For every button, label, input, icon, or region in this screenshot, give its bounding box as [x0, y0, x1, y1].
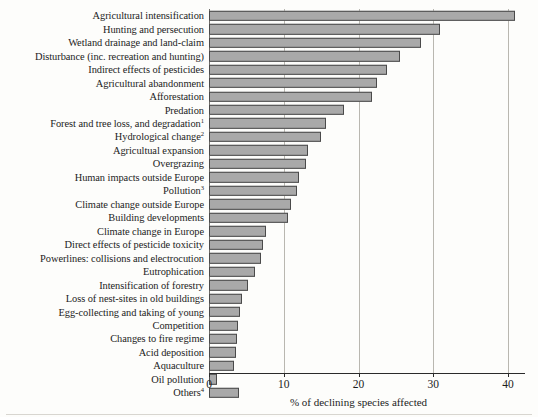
bar-row: Climate change in Europe [0, 225, 538, 238]
bar-row: Oil pollution [0, 373, 538, 386]
bar-row: Eutrophication [0, 265, 538, 278]
bar [209, 361, 234, 371]
bar [209, 37, 421, 47]
category-label: Intensification of forestry [0, 280, 204, 291]
bar-row: Overgrazing [0, 157, 538, 170]
bar [209, 118, 326, 128]
bar [209, 293, 242, 303]
bar [209, 266, 255, 276]
bar [209, 51, 400, 61]
bar [209, 159, 306, 169]
bar [209, 213, 288, 223]
footnote-marker: 3 [201, 184, 204, 191]
category-label: Direct effects of pesticide toxicity [0, 239, 204, 250]
category-label: Agricultural intensification [0, 10, 204, 21]
category-label: Competition [0, 320, 204, 331]
category-label: Changes to fire regime [0, 333, 204, 344]
bar [209, 91, 372, 101]
footer-divider [6, 414, 532, 415]
category-label: Human impacts outside Europe [0, 172, 204, 183]
bar [209, 24, 440, 34]
bar-row: Egg-collecting and taking of young [0, 305, 538, 318]
bar [209, 307, 240, 317]
bar-row: Hydrological change2 [0, 130, 538, 143]
bar-row: Acid deposition [0, 346, 538, 359]
bar-row: Building developments [0, 211, 538, 224]
category-label: Predation [0, 105, 204, 116]
bar-row: Direct effects of pesticide toxicity [0, 238, 538, 251]
category-label: Agricultual expansion [0, 145, 204, 156]
bar-row: Competition [0, 319, 538, 332]
category-label: Hydrological change2 [0, 131, 204, 142]
bar-row: Pollution3 [0, 184, 538, 197]
footnote-marker: 2 [201, 130, 204, 137]
category-label: Afforestation [0, 91, 204, 102]
bar [209, 347, 236, 357]
bar [209, 320, 238, 330]
category-label: Forest and tree loss, and degradation1 [0, 118, 204, 129]
x-tick-label: 0 [206, 378, 212, 390]
bar-row: Hunting and persecution [0, 22, 538, 35]
bar-row: Climate change outside Europe [0, 198, 538, 211]
bar [209, 240, 263, 250]
category-label: Overgrazing [0, 158, 204, 169]
bar [209, 253, 261, 263]
bar [209, 334, 237, 344]
category-label: Building developments [0, 212, 204, 223]
category-label: Powerlines: collisions and electrocution [0, 253, 204, 264]
bar [209, 64, 387, 74]
footnote-marker: 4 [201, 386, 204, 393]
bar-row: Agricultural abandonment [0, 76, 538, 89]
category-label: Eutrophication [0, 266, 204, 277]
x-axis-title: % of declining species affected [209, 396, 508, 408]
tick-mark-40 [508, 373, 509, 377]
bar [209, 145, 308, 155]
bar [209, 186, 297, 196]
x-tick-label: 30 [428, 378, 440, 390]
bar [209, 78, 377, 88]
bar-row: Indirect effects of pesticides [0, 63, 538, 76]
tick-mark-20 [359, 373, 360, 377]
footnote-marker: 1 [201, 117, 204, 124]
bar-row: Powerlines: collisions and electrocution [0, 251, 538, 264]
bar-row: Agricultual expansion [0, 144, 538, 157]
bar-row: Wetland drainage and land-claim [0, 36, 538, 49]
bar-row: Changes to fire regime [0, 332, 538, 345]
category-label: Egg-collecting and taking of young [0, 307, 204, 318]
category-label: Others4 [0, 387, 204, 398]
bar [209, 280, 248, 290]
x-tick-label: 10 [278, 378, 290, 390]
bar-row: Loss of nest-sites in old buildings [0, 292, 538, 305]
category-label: Wetland drainage and land-claim [0, 37, 204, 48]
bar-chart: Agricultural intensificationHunting and … [0, 0, 538, 417]
category-label: Acid deposition [0, 347, 204, 358]
bar [209, 226, 266, 236]
bar [209, 11, 515, 21]
category-label: Disturbance (inc. recreation and hunting… [0, 51, 204, 62]
x-tick-label: 40 [502, 378, 514, 390]
bar-row: Forest and tree loss, and degradation1 [0, 117, 538, 130]
category-label: Aquaculture [0, 360, 204, 371]
tick-mark-10 [284, 373, 285, 377]
bar-row: Aquaculture [0, 359, 538, 372]
category-label: Agricultural abandonment [0, 78, 204, 89]
bar [209, 132, 321, 142]
category-label: Climate change in Europe [0, 226, 204, 237]
category-label: Oil pollution [0, 374, 204, 385]
bar-row: Agricultural intensification [0, 9, 538, 22]
category-label: Loss of nest-sites in old buildings [0, 293, 204, 304]
bar-row: Intensification of forestry [0, 278, 538, 291]
bar-row: Afforestation [0, 90, 538, 103]
bar [209, 199, 291, 209]
category-label: Pollution3 [0, 185, 204, 196]
bar [209, 105, 344, 115]
bar-row: Disturbance (inc. recreation and hunting… [0, 49, 538, 62]
x-tick-label: 20 [353, 378, 365, 390]
category-label: Hunting and persecution [0, 24, 204, 35]
bar-rows: Agricultural intensificationHunting and … [0, 9, 538, 373]
bar [209, 172, 299, 182]
bar-row: Predation [0, 103, 538, 116]
tick-mark-30 [433, 373, 434, 377]
category-label: Indirect effects of pesticides [0, 64, 204, 75]
bar-row: Human impacts outside Europe [0, 171, 538, 184]
